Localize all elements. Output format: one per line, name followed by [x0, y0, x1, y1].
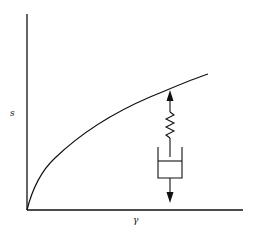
spring-icon — [166, 112, 174, 138]
y-axis-label: s — [10, 108, 15, 118]
x-axis-label: γ — [133, 215, 138, 225]
up-arrow-icon — [167, 90, 174, 101]
stress-strain-curve — [27, 74, 208, 210]
spring-dashpot-element — [158, 90, 182, 203]
down-arrow-icon — [167, 192, 174, 203]
diagram-canvas — [0, 0, 256, 242]
